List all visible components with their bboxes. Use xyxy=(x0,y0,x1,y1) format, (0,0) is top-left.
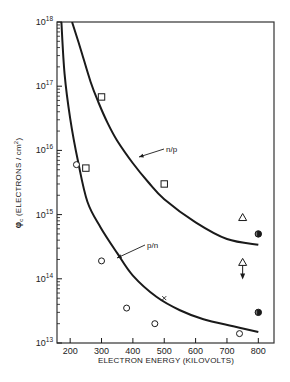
triangle-icon xyxy=(239,258,247,265)
x-tick-label: 200 xyxy=(63,346,78,356)
upper-limit-marker xyxy=(239,258,247,279)
annotation-arrow xyxy=(117,245,145,258)
circle-marker xyxy=(124,305,130,311)
x-axis-label: ELECTRON ENERGY (KILOVOLTS) xyxy=(98,356,234,365)
cross-marker xyxy=(162,296,166,300)
half-filled-circle-marker xyxy=(255,231,261,237)
y-tick-label: 1013 xyxy=(36,336,54,348)
arrowhead-icon xyxy=(139,154,144,158)
triangle-marker xyxy=(239,214,247,221)
y-tick-label: 1018 xyxy=(36,15,54,27)
circle-marker xyxy=(237,331,243,337)
annotation-n-over-p: n/p xyxy=(139,145,178,158)
circle-marker xyxy=(99,258,105,264)
y-tick-label: 1015 xyxy=(36,208,54,220)
x-tick-label: 800 xyxy=(251,346,266,356)
svg-text:φc (ELECTRONS / cm2): φc (ELECTRONS / cm2) xyxy=(13,138,24,229)
chart: 101310141015101610171018 200300400500600… xyxy=(0,0,290,382)
y-axis-label: φc (ELECTRONS / cm2) xyxy=(13,138,24,229)
fitted-curves xyxy=(61,22,258,332)
x-axis-ticks: 200300400500600700800 xyxy=(63,338,266,356)
curve-n-over-p xyxy=(72,22,258,245)
curve-label: p/n xyxy=(147,241,158,250)
y-axis-ticks: 101310141015101610171018 xyxy=(36,15,62,348)
y-tick-label: 1017 xyxy=(36,79,54,91)
circle-marker xyxy=(73,162,79,168)
square-marker xyxy=(98,94,104,100)
x-tick-label: 500 xyxy=(157,346,172,356)
curve-p-over-n xyxy=(61,22,258,332)
x-tick-label: 600 xyxy=(188,346,203,356)
y-tick-label: 1014 xyxy=(36,272,54,284)
x-tick-label: 700 xyxy=(219,346,234,356)
arrow-down-icon xyxy=(240,273,245,279)
square-marker xyxy=(83,165,89,171)
half-filled-circle-marker xyxy=(255,309,261,315)
data-markers xyxy=(73,94,261,337)
annotation-p-over-n: p/n xyxy=(117,241,158,258)
x-tick-label: 400 xyxy=(125,346,140,356)
square-marker xyxy=(161,181,167,187)
curve-label: n/p xyxy=(166,145,178,154)
circle-marker xyxy=(152,321,158,327)
x-tick-label: 300 xyxy=(94,346,109,356)
y-tick-label: 1016 xyxy=(36,143,54,155)
